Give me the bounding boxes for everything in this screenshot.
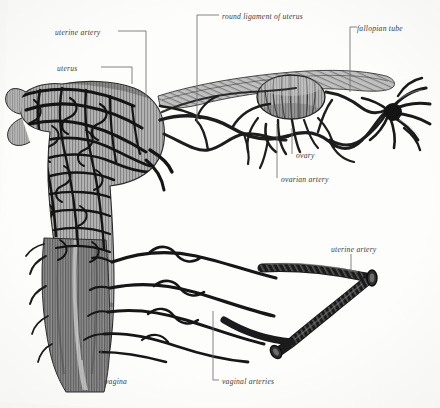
vessel-trunk [224, 263, 377, 360]
anatomy-illustration [0, 0, 440, 408]
leader-vaginal-arteries [213, 311, 219, 380]
vagina-column [42, 238, 110, 392]
label-uterine-artery-top: uterine artery [55, 28, 100, 37]
label-ovary: ovary [296, 151, 315, 160]
label-uterine-artery-right: uterine artery [331, 245, 376, 254]
label-uterus: uterus [57, 64, 77, 73]
anatomical-plate: uterine artery uterus round ligament of … [0, 0, 440, 408]
label-vagina: vagina [105, 377, 127, 386]
leader-round-ligament [197, 15, 219, 122]
ovary-mass [257, 75, 325, 121]
label-ovarian-artery: ovarian artery [281, 175, 329, 184]
label-round-ligament-of-uterus: round ligament of uterus [222, 12, 303, 21]
label-vaginal-arteries: vaginal arteries [222, 377, 274, 386]
label-fallopian-tube: fallopian tube [357, 24, 403, 33]
